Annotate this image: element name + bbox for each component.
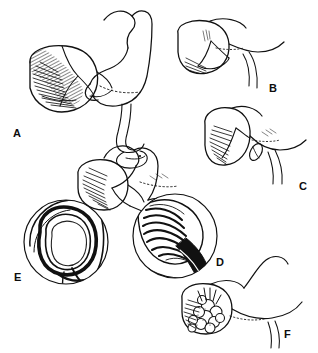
panel-label-f: F bbox=[284, 329, 291, 340]
panel-label-d: D bbox=[216, 257, 224, 268]
illustration-canvas bbox=[0, 0, 318, 353]
illustration-plate: A B C D E F bbox=[0, 0, 318, 353]
panel-label-a: A bbox=[13, 128, 21, 139]
panel-label-b: B bbox=[269, 83, 277, 94]
panel-label-c: C bbox=[299, 181, 307, 192]
panel-label-e: E bbox=[14, 272, 22, 283]
loop-marker-a bbox=[139, 155, 141, 157]
